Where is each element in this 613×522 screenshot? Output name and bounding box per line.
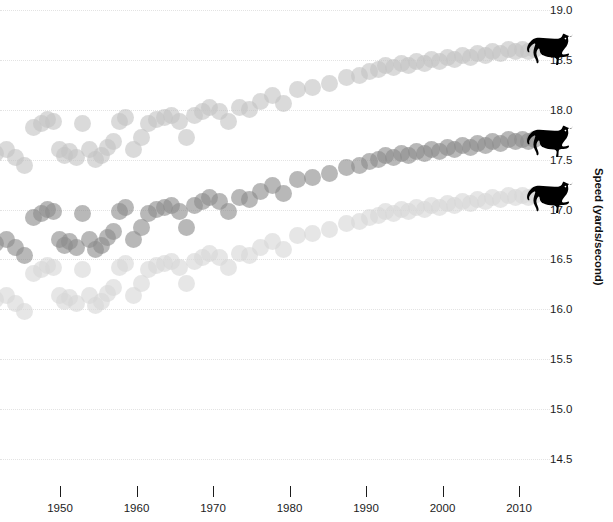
data-point [171, 203, 188, 220]
data-point [361, 153, 378, 170]
data-point [133, 219, 150, 236]
horse-icon [527, 181, 573, 213]
data-point [439, 139, 456, 156]
y-tick-label-14.5: 14.5 [550, 453, 592, 465]
data-point [194, 103, 211, 120]
data-point [338, 215, 355, 232]
data-point [500, 187, 517, 204]
data-point [416, 55, 433, 72]
data-point [140, 115, 157, 132]
data-point [194, 193, 211, 210]
data-point [211, 103, 228, 120]
data-point [56, 293, 73, 310]
data-point [492, 135, 509, 152]
data-point [361, 63, 378, 80]
data-point [220, 203, 237, 220]
data-point [163, 197, 180, 214]
data-point [87, 297, 104, 314]
data-point [68, 149, 85, 166]
data-point [171, 113, 188, 130]
data-point [469, 135, 486, 152]
data-point [477, 137, 494, 154]
data-point [439, 49, 456, 66]
y-tick-label-15.0: 15.0 [550, 403, 592, 415]
y-axis-title: Speed (yards/second) [588, 168, 610, 308]
data-point [33, 261, 50, 278]
x-tick-mark-1970 [213, 486, 214, 497]
data-point [462, 139, 479, 156]
y-tick-label-16.5: 16.5 [550, 253, 592, 265]
data-point [351, 67, 368, 84]
data-point [484, 189, 501, 206]
data-point [361, 209, 378, 226]
x-tick-mark-1980 [290, 486, 291, 497]
data-point [171, 259, 188, 276]
scatter-plot-area [0, 0, 550, 480]
data-point [469, 191, 486, 208]
data-point [93, 237, 110, 254]
data-point [51, 231, 68, 248]
data-point [45, 113, 62, 130]
data-point [338, 159, 355, 176]
data-point [156, 255, 173, 272]
data-point [125, 231, 142, 248]
data-point [117, 109, 134, 126]
y-tick-label-15.5: 15.5 [550, 353, 592, 365]
data-point [163, 253, 180, 270]
data-point [462, 49, 479, 66]
data-point [87, 241, 104, 258]
data-point [140, 261, 157, 278]
data-point [385, 59, 402, 76]
data-point [351, 213, 368, 230]
data-point [25, 209, 42, 226]
data-point [408, 199, 425, 216]
data-point [264, 233, 281, 250]
data-point [178, 129, 195, 146]
x-tick-label-2000: 2000 [430, 502, 456, 514]
data-point [477, 47, 494, 64]
data-point [178, 219, 195, 236]
data-point [16, 247, 33, 264]
y-tick-label-18.0: 18.0 [550, 104, 592, 116]
x-tick-label-1950: 1950 [47, 502, 73, 514]
data-point [304, 225, 321, 242]
data-point [408, 143, 425, 160]
data-point [0, 235, 4, 252]
data-point [264, 87, 281, 104]
data-point [51, 141, 68, 158]
data-point [275, 241, 292, 258]
data-point [133, 129, 150, 146]
data-point [377, 147, 394, 164]
data-point [111, 259, 128, 276]
data-point [507, 189, 524, 206]
gridline-15.5 [0, 359, 550, 360]
data-point [220, 259, 237, 276]
data-point [431, 199, 448, 216]
data-point [500, 41, 517, 58]
x-tick-mark-1990 [366, 486, 367, 497]
data-point [194, 249, 211, 266]
data-point [81, 231, 98, 248]
gridline-16.0 [0, 309, 550, 310]
data-point [93, 293, 110, 310]
data-point [0, 141, 15, 158]
data-point [400, 203, 417, 220]
data-point [99, 139, 116, 156]
data-point [477, 193, 494, 210]
data-point [446, 141, 463, 158]
data-point [492, 191, 509, 208]
data-point [400, 147, 417, 164]
data-point [140, 205, 157, 222]
data-point [74, 205, 91, 222]
data-point [156, 199, 173, 216]
data-point [99, 285, 116, 302]
data-point [289, 171, 306, 188]
data-point [377, 203, 394, 220]
data-point [507, 133, 524, 150]
chart-root: 19.018.518.017.517.016.516.015.515.014.5… [0, 0, 613, 522]
data-point [61, 143, 78, 160]
data-point [61, 289, 78, 306]
data-point [385, 149, 402, 166]
data-point [45, 203, 62, 220]
data-point [117, 199, 134, 216]
